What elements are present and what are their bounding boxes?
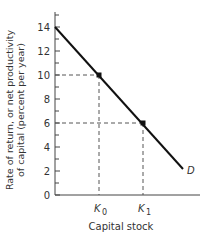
y-axis-title: Rate of return, or net productivity of c…: [4, 30, 26, 191]
y-tick-4: 4: [44, 142, 50, 153]
svg-text:K: K: [138, 203, 146, 214]
reference-lines: [55, 75, 143, 195]
y-tick-2: 2: [44, 166, 50, 177]
svg-text:K: K: [94, 203, 102, 214]
y-tick-8: 8: [44, 94, 50, 105]
point-k0: [97, 73, 102, 78]
capital-demand-chart: 0 2 4 6 8 10 12 14 Rate of return, or ne…: [0, 0, 208, 236]
point-k1: [141, 121, 146, 126]
svg-text:1: 1: [146, 208, 151, 217]
y-tick-12: 12: [37, 46, 50, 57]
y-tick-10: 10: [37, 70, 50, 81]
y-ticks: [55, 15, 60, 195]
svg-text:Rate of return, or net product: Rate of return, or net productivity: [4, 30, 15, 191]
x-tick-k1: K 1: [138, 203, 151, 217]
curve-label-d: D: [187, 165, 195, 176]
y-tick-6: 6: [44, 118, 50, 129]
demand-curve: [55, 27, 183, 169]
svg-text:of capital (percent per year): of capital (percent per year): [15, 43, 26, 177]
y-tick-14: 14: [37, 22, 50, 33]
y-tick-0: 0: [44, 190, 50, 201]
x-axis-title: Capital stock: [89, 221, 154, 232]
svg-text:0: 0: [102, 208, 107, 217]
x-tick-k0: K 0: [94, 203, 107, 217]
